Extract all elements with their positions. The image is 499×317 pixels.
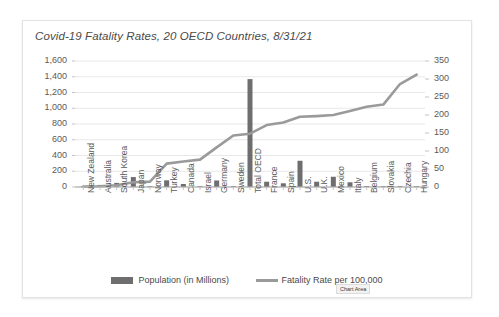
category-label: U.K. [320,176,329,193]
category-label: Sweden [237,162,246,193]
legend-item-population[interactable]: Population (in Millions) [111,274,229,285]
bar-population[interactable] [348,182,353,187]
category-label: Australia [104,160,113,193]
category-label: Israel [204,172,213,193]
chart-container[interactable]: Covid-19 Fatality Rates, 20 OECD Countri… [22,20,472,298]
bar-population[interactable] [298,161,303,187]
category-label: Mexico [337,166,346,193]
category-label: South Korea [120,146,129,193]
category-label: Belgium [370,162,379,193]
bar-swatch-icon [111,277,133,284]
legend-label-population: Population (in Millions) [138,275,229,285]
category-label: Spain [287,171,296,193]
category-label: Turkey [170,167,179,193]
right-axis-label: 50 [434,164,444,173]
left-axis-label: 1,200 [44,88,67,97]
category-label: Norway [154,164,163,193]
right-axis-label: 150 [434,128,449,137]
category-label: Total OECD [254,148,263,193]
line-swatch-icon [256,279,278,282]
category-label: New Zealand [87,143,96,193]
right-axis-label: 350 [434,56,449,65]
category-label: U.S. [304,176,313,193]
right-axis-label: 0 [434,182,439,191]
right-axis-label: 300 [434,74,449,83]
category-label: Slovakia [387,161,396,193]
chart-area-tooltip: Chart Area [336,284,370,294]
plot-area[interactable]: 02004006008001,0001,2001,4001,6000501001… [23,21,471,297]
left-axis-label: 800 [52,119,67,128]
left-axis-label: 1,000 [44,103,67,112]
left-axis-label: 1,400 [44,72,67,81]
right-axis-label: 200 [434,110,449,119]
category-label: Japan [137,170,146,193]
category-label: Germany [220,158,229,193]
right-axis-label: 250 [434,92,449,101]
left-axis-label: 0 [62,182,67,191]
left-axis-label: 600 [52,135,67,144]
category-label: Hungary [420,161,429,193]
category-label: Canada [187,163,196,193]
right-axis-label: 100 [434,146,449,155]
category-label: France [270,167,279,193]
left-axis-label: 200 [52,166,67,175]
left-axis-label: 1,600 [44,56,67,65]
category-label: Italy [354,177,363,193]
category-label: Czechia [404,162,413,193]
chart-legend[interactable]: Population (in Millions) Fatality Rate p… [23,274,471,285]
left-axis-label: 400 [52,151,67,160]
